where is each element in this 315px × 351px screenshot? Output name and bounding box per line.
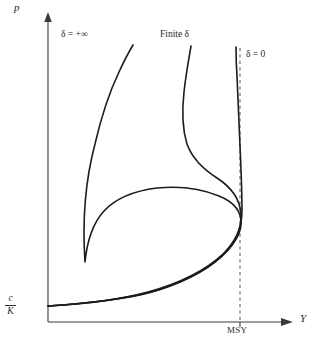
fraction-numerator: c [5, 294, 16, 304]
curve-delta-zero [48, 47, 242, 306]
x-axis [48, 318, 293, 326]
curve-delta-finite [48, 46, 241, 306]
y-axis [44, 12, 52, 322]
y-axis-label: p [14, 2, 20, 13]
curve-label-delta-infinite: δ = +∞ [61, 30, 88, 40]
curve-label-delta-zero: δ = 0 [246, 50, 265, 60]
x-axis-label: Y [300, 313, 306, 324]
msy-label: MSY [227, 326, 247, 335]
curve-label-delta-finite: Finite δ [160, 30, 189, 40]
supply-curve-figure: p Y c K MSY δ = +∞ Finite δ δ = 0 [0, 0, 315, 351]
fraction-denominator: K [5, 307, 16, 317]
chart-canvas [0, 0, 315, 351]
y-origin-fraction-label: c K [5, 294, 16, 317]
